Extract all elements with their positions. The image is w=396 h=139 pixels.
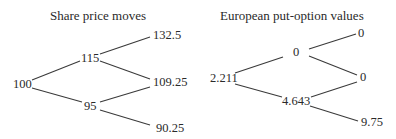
share-node-up: 115 [81,52,99,65]
share-tree-title: Share price moves [50,8,146,24]
edge-root-to-down [32,88,82,102]
option-tree-title: European put-option values [220,8,364,24]
option-node-down: 4.643 [282,95,310,108]
edge-root-to-up [32,61,80,80]
edge-opt-up-to-updown [309,56,357,75]
edge-opt-root-to-up [235,57,283,73]
share-node-up-up: 132.5 [153,29,181,42]
option-node-root: 2.211 [210,72,238,85]
share-node-up-down: 109.25 [153,76,187,89]
option-node-down-down: 9.75 [361,116,383,129]
edge-opt-up-to-upup [309,34,356,49]
edge-opt-root-to-down [235,84,282,97]
share-node-down: 95 [84,100,97,113]
share-node-down-down: 90.25 [156,122,184,135]
share-node-root: 100 [13,78,32,91]
edge-down-to-downdown [100,110,150,125]
edge-opt-down-to-updown [311,82,357,97]
binomial-tree-diagram: Share price moves 132.5 115 100 109.25 9… [0,0,396,139]
edge-up-to-upup [100,37,150,54]
option-node-up-down: 0 [360,71,366,84]
edge-opt-down-to-downdown [310,106,358,121]
option-node-up: 0 [293,46,299,59]
option-node-up-up: 0 [358,27,364,40]
edge-down-to-updown [100,87,150,102]
edge-up-to-updown [100,61,150,79]
